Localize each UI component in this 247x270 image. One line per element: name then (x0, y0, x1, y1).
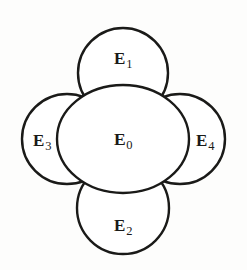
set-ellipse-e0[interactable] (57, 85, 189, 193)
set-diagram-figure: E1 E0 E3 E4 E2 (0, 0, 247, 270)
diagram-canvas (0, 0, 247, 270)
